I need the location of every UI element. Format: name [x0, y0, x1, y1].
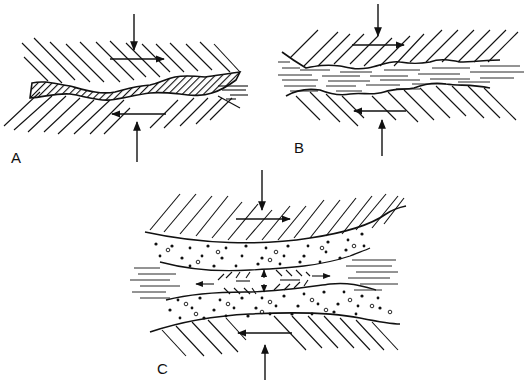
panel-b: [278, 4, 524, 156]
panel-c-central-upper-boundary: [160, 248, 370, 271]
panel-c: [130, 170, 406, 380]
diagram-canvas: [0, 0, 532, 383]
panel-a: [4, 14, 248, 162]
panel-b-lower-hatching: [296, 86, 516, 126]
panel-c-central-lens: [196, 270, 330, 294]
panel-c-lower-boundary: [150, 313, 400, 332]
panel-c-particles-upper: [154, 232, 365, 267]
panel-c-fluid-band: [130, 260, 398, 298]
panel-c-particles-upper-hollow: [166, 244, 356, 264]
panel-c-lower-hatching: [162, 316, 398, 356]
panel-c-label: C: [157, 361, 168, 376]
panel-c-upper-hatching: [150, 194, 404, 240]
panel-a-label: A: [11, 150, 21, 165]
panel-b-label: B: [294, 140, 304, 155]
panel-a-film: [30, 72, 240, 100]
